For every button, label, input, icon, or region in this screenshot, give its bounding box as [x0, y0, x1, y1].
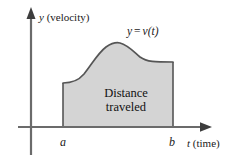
- curve-equation-rhs: v(t): [143, 25, 159, 37]
- distance-traveled-label-line2: traveled: [95, 100, 157, 114]
- x-axis-label: t (time): [187, 138, 220, 149]
- y-axis-quantity: (velocity): [47, 11, 90, 23]
- y-axis-label: y (velocity): [39, 12, 89, 23]
- x-axis-arrow-icon: [200, 122, 212, 132]
- x-tick-label-b: b: [169, 136, 175, 148]
- curve-equation-label: y=v(t): [127, 26, 159, 38]
- x-tick-label-a: a: [60, 136, 66, 148]
- curve-equation-equals-sign: =: [132, 25, 143, 37]
- x-axis-quantity: (time): [193, 137, 220, 149]
- distance-traveled-label: Distance traveled: [95, 86, 157, 115]
- y-axis-arrow-icon: [27, 7, 36, 19]
- y-axis-variable: y: [39, 11, 44, 23]
- distance-traveled-label-line1: Distance: [95, 86, 157, 100]
- x-axis-variable: t: [187, 137, 190, 149]
- velocity-time-diagram: y (velocity) t (time) y=v(t) a b Distanc…: [0, 0, 230, 164]
